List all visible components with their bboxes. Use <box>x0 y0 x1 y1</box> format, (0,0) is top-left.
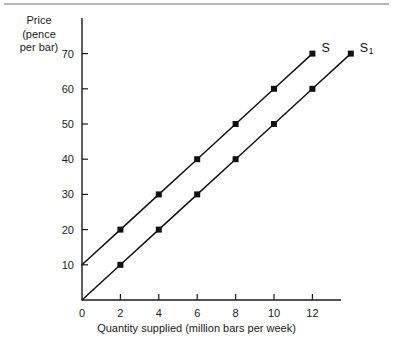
y-tick-label-10: 10 <box>40 259 74 270</box>
series-S1-marker-2 <box>194 191 200 197</box>
y-tick-label-60: 60 <box>40 83 74 94</box>
series-S-marker-2 <box>194 156 200 162</box>
series-label-S1: S1 <box>360 42 373 55</box>
series-label-text-S1: S <box>360 41 368 55</box>
series-S1-marker-5 <box>309 86 315 92</box>
x-tick-label-6: 6 <box>194 308 200 319</box>
y-tick-label-50: 50 <box>40 119 74 130</box>
series-label-subscript-S1: 1 <box>369 46 374 56</box>
y-tick-label-70: 70 <box>40 48 74 59</box>
x-tick-label-4: 4 <box>156 308 162 319</box>
series-S-marker-3 <box>233 121 239 127</box>
y-tick-label-20: 20 <box>40 224 74 235</box>
series-S1-marker-0 <box>117 262 123 268</box>
x-tick-label-10: 10 <box>268 308 280 319</box>
series-S-marker-1 <box>156 191 162 197</box>
y-axis-title-line-2: (pence <box>8 28 70 42</box>
series-label-text-S: S <box>321 41 329 55</box>
series-label-S: S <box>321 42 329 55</box>
x-tick-label-2: 2 <box>117 308 123 319</box>
series-S1-marker-6 <box>348 51 354 57</box>
series-S1-marker-4 <box>271 121 277 127</box>
y-tick-label-40: 40 <box>40 154 74 165</box>
series-S1-marker-1 <box>156 227 162 233</box>
supply-curve-chart: Price (pence per bar) Quantity supplied … <box>0 0 393 346</box>
series-S1-marker-3 <box>233 156 239 162</box>
y-axis-title-line-1: Price <box>8 14 70 28</box>
x-tick-label-8: 8 <box>233 308 239 319</box>
x-axis-title: Quantity supplied (million bars per week… <box>0 322 393 334</box>
series-S-marker-0 <box>117 227 123 233</box>
x-tick-label-12: 12 <box>306 308 318 319</box>
x-tick-label-0: 0 <box>79 308 85 319</box>
series-S-marker-4 <box>271 86 277 92</box>
series-S-marker-5 <box>309 51 315 57</box>
y-tick-label-30: 30 <box>40 189 74 200</box>
